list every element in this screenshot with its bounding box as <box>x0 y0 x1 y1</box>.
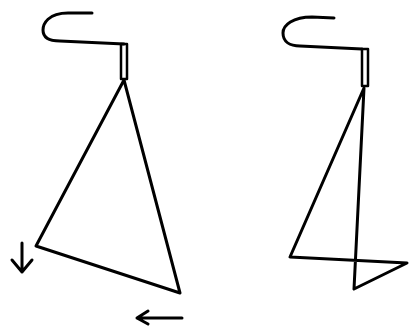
triangle-frame-left <box>36 80 180 293</box>
hook-right <box>283 17 362 49</box>
down-arrow-icon <box>12 243 32 272</box>
frame-right <box>290 88 407 289</box>
hook-left <box>43 13 124 44</box>
neck-left <box>121 44 127 79</box>
hanger-left <box>36 13 180 293</box>
left-arrow-icon <box>137 311 182 324</box>
neck-right <box>362 49 368 86</box>
diagram-canvas <box>0 0 417 329</box>
hanger-right <box>283 17 407 289</box>
